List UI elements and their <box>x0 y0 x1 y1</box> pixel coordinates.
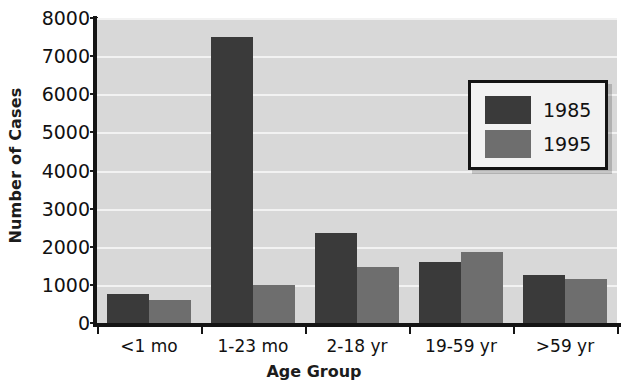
y-tick-label: 6000 <box>28 85 90 104</box>
x-axis-line <box>93 323 621 327</box>
y-tick-label: 2000 <box>28 237 90 256</box>
bar <box>211 37 253 323</box>
x-tick-label: 19-59 yr <box>425 336 497 356</box>
legend-label: 1995 <box>543 135 591 154</box>
legend-swatch <box>485 130 531 158</box>
x-tick-label: 1-23 mo <box>218 336 289 356</box>
legend-item: 1995 <box>485 129 591 159</box>
y-tick-label: 3000 <box>28 199 90 218</box>
x-tick-label: <1 mo <box>120 336 177 356</box>
plot-area <box>97 18 617 323</box>
y-tick-label: 7000 <box>28 47 90 66</box>
bar-chart-figure: Number of Cases 010002000300040005000600… <box>0 0 628 383</box>
chart-legend: 19851995 <box>468 80 608 170</box>
x-tick-mark <box>617 325 619 334</box>
legend-swatch <box>485 96 531 124</box>
bar <box>419 262 461 323</box>
bar <box>253 285 295 323</box>
x-tick-mark <box>201 325 203 334</box>
gridline <box>97 171 617 173</box>
gridline <box>97 209 617 211</box>
x-tick-label: >59 yr <box>536 336 594 356</box>
gridline <box>97 247 617 249</box>
x-tick-mark <box>97 325 99 334</box>
bar <box>149 300 191 323</box>
bar <box>315 233 357 323</box>
bar <box>523 275 565 323</box>
bar <box>461 252 503 323</box>
x-tick-mark <box>513 325 515 334</box>
y-tick-label: 1000 <box>28 275 90 294</box>
gridline <box>97 56 617 58</box>
y-tick-label: 8000 <box>28 9 90 28</box>
bar <box>107 294 149 323</box>
x-tick-mark <box>305 325 307 334</box>
gridline <box>97 18 617 20</box>
x-axis-title: Age Group <box>0 362 628 381</box>
x-tick-mark <box>409 325 411 334</box>
legend-label: 1985 <box>543 101 591 120</box>
x-tick-label: 2-18 yr <box>326 336 387 356</box>
y-tick-label: 4000 <box>28 161 90 180</box>
y-tick-label: 0 <box>28 314 90 333</box>
y-axis-ticks: 010002000300040005000600070008000 <box>28 0 90 383</box>
bar <box>565 279 607 323</box>
legend-item: 1985 <box>485 95 591 125</box>
y-axis-title: Number of Cases <box>0 0 30 330</box>
y-tick-label: 5000 <box>28 123 90 142</box>
y-axis-title-text: Number of Cases <box>6 87 25 243</box>
bar <box>357 267 399 323</box>
